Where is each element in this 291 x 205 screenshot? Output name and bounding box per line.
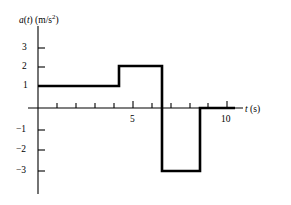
y-axis-ticks [38, 48, 45, 171]
y-tick-label-neg-2: −2 [16, 145, 26, 155]
y-tick-label-neg-1: −1 [16, 125, 26, 135]
y-axis-title: a(t) (m/s2) [19, 14, 59, 26]
y-tick-label-1: 1 [23, 81, 28, 91]
y-axis-units-open: (m/s [33, 15, 52, 25]
y-axis-var-t: t [27, 15, 30, 25]
y-tick-label-neg-3: −3 [16, 166, 26, 176]
x-tick-label-5: 5 [130, 115, 135, 125]
x-axis-units: (s) [248, 104, 260, 114]
acceleration-step-curve [38, 66, 235, 171]
y-tick-label-3: 3 [22, 43, 27, 53]
x-axis-title: t (s) [245, 105, 260, 115]
y-axis-units-close: ) [55, 15, 58, 25]
y-tick-label-2: 2 [22, 62, 27, 72]
acceleration-time-figure: a(t) (m/s2) t (s) 3 2 1 −1 −2 −3 5 10 [0, 0, 291, 205]
y-axis-arg: (t) [24, 15, 33, 25]
x-tick-label-10: 10 [221, 115, 231, 125]
plot-canvas [0, 0, 291, 205]
